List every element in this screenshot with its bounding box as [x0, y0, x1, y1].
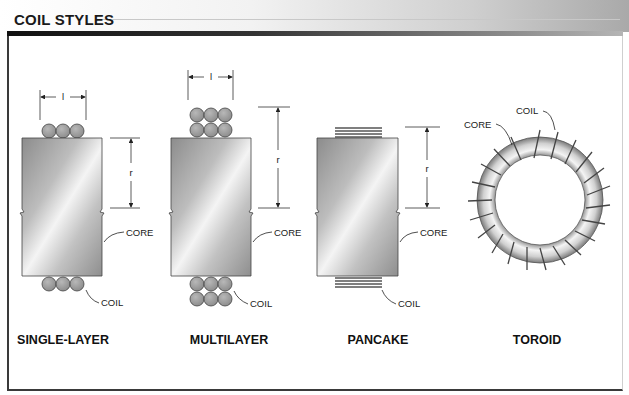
length-dim-label: l: [210, 71, 212, 82]
pancake-coil-bottom: [335, 278, 382, 287]
pancake-coil-figure: r CORE COIL: [315, 127, 447, 309]
caption-toroid: TOROID: [513, 333, 561, 347]
radius-dim-label: r: [276, 154, 279, 165]
coil-leader: [382, 290, 396, 304]
coil-label: COIL: [250, 298, 272, 309]
core-label: CORE: [126, 227, 153, 238]
radius-dim-label: r: [425, 163, 428, 174]
coil-turns-top: [42, 124, 84, 138]
caption-pancake: PANCAKE: [348, 333, 409, 347]
core-leader: [104, 232, 124, 242]
core-rod: [315, 138, 400, 276]
toroid-hole: [495, 155, 585, 245]
coil-label: COIL: [101, 297, 123, 308]
radius-dimension: [258, 107, 290, 208]
coil-turns-top: [190, 108, 232, 137]
multilayer-coil-figure: l r CORE COIL: [169, 70, 301, 309]
core-rod: [20, 138, 104, 276]
length-dim-label: l: [62, 91, 64, 102]
toroid-coil-figure: CORE COIL: [464, 105, 610, 270]
coil-label: COIL: [398, 298, 420, 309]
core-leader: [400, 232, 418, 242]
radius-dim-label: r: [129, 167, 132, 178]
coil-turns-bottom: [190, 277, 232, 306]
core-rod: [169, 138, 253, 276]
core-label: CORE: [274, 227, 301, 238]
radius-dimension: [405, 127, 440, 208]
radius-dimension: [110, 138, 140, 208]
core-leader: [496, 124, 512, 145]
core-label: CORE: [464, 119, 491, 130]
pancake-coil-top: [335, 128, 382, 137]
coil-label: COIL: [516, 105, 538, 116]
coil-turns-bottom: [42, 277, 84, 291]
coil-leader: [86, 290, 99, 303]
caption-multilayer: MULTILAYER: [190, 333, 268, 347]
caption-single-layer: SINGLE-LAYER: [17, 333, 109, 347]
core-label: CORE: [420, 227, 447, 238]
coil-leader: [543, 111, 555, 130]
coil-leader: [234, 291, 248, 304]
core-leader: [253, 232, 272, 242]
single-layer-coil-figure: l r CORE COIL: [20, 90, 153, 308]
